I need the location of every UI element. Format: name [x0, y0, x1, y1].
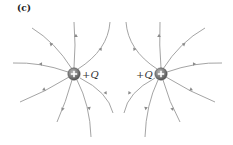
field-line: [124, 78, 155, 113]
field-line: [78, 22, 110, 69]
field-line: [163, 80, 180, 122]
field-line: [163, 28, 205, 69]
field-line: [126, 22, 157, 69]
diagram-canvas: (c): [0, 0, 233, 145]
left-charge-label: +Q: [82, 69, 99, 80]
left-positive-charge: +Q: [68, 68, 99, 80]
field-lines-diagram: (c): [0, 0, 233, 145]
field-line: [32, 28, 72, 69]
field-line: [145, 80, 158, 137]
left-charge-field-lines: [13, 22, 113, 137]
right-charge-field-lines: [124, 22, 222, 137]
field-line: [160, 22, 161, 68]
field-line: [57, 80, 72, 122]
field-line: [80, 78, 113, 113]
right-positive-charge: +Q: [136, 68, 167, 80]
panel-label: (c): [17, 3, 31, 13]
field-line: [74, 22, 75, 68]
right-charge-label: +Q: [136, 69, 153, 80]
